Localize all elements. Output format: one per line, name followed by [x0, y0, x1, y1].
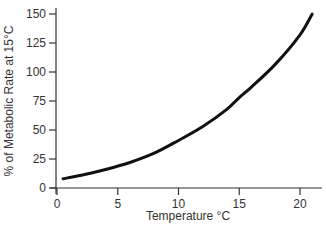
y-axis-label: % of Metabolic Rate at 15°C [2, 25, 16, 176]
x-tick-label: 15 [233, 197, 247, 211]
y-tick-label: 150 [26, 7, 46, 21]
y-tick-label: 100 [26, 65, 46, 79]
x-tick-label: 0 [54, 197, 61, 211]
y-tick-label: 50 [33, 123, 47, 137]
metabolic-rate-curve [63, 14, 312, 179]
metabolic-rate-chart: 0255075100125150 05101520 Temperature °C… [0, 0, 326, 234]
y-tick-label: 25 [33, 152, 47, 166]
x-axis: 05101520 [50, 188, 322, 211]
x-tick-label: 20 [293, 197, 307, 211]
y-tick-label: 75 [33, 94, 47, 108]
y-tick-label: 125 [26, 36, 46, 50]
y-tick-label: 0 [39, 181, 46, 195]
x-axis-label: Temperature °C [146, 209, 230, 223]
y-axis: 0255075100125150 [26, 7, 56, 195]
x-tick-label: 5 [114, 197, 121, 211]
